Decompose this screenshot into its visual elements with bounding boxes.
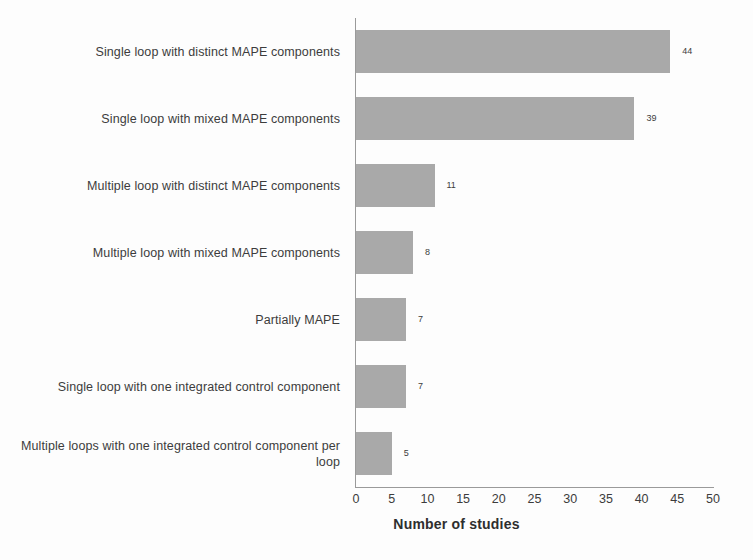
- bar-value-label: 8: [425, 231, 430, 274]
- bar: [356, 164, 435, 207]
- category-label: Multiple loop with distinct MAPE compone…: [10, 178, 340, 194]
- category-label: Single loop with mixed MAPE components: [10, 111, 340, 127]
- bar: [356, 97, 634, 140]
- bar-chart-figure: Single loop with distinct MAPE component…: [0, 0, 753, 560]
- bar-value-label: 11: [447, 164, 456, 207]
- category-label: Multiple loops with one integrated contr…: [10, 438, 340, 470]
- x-axis-title: Number of studies: [0, 516, 753, 532]
- x-axis-title-text: Number of studies: [393, 516, 519, 532]
- x-tick-label: 10: [420, 492, 434, 506]
- x-tick-label: 35: [599, 492, 613, 506]
- x-tick-label: 15: [456, 492, 470, 506]
- x-tick-label: 5: [388, 492, 395, 506]
- x-tick-label: 25: [528, 492, 542, 506]
- bar-value-label: 44: [682, 30, 692, 73]
- bar: [356, 298, 406, 341]
- category-label: Multiple loop with mixed MAPE components: [10, 245, 340, 261]
- bar: [356, 365, 406, 408]
- bar-value-label: 7: [418, 365, 423, 408]
- x-tick-label: 20: [492, 492, 506, 506]
- bar: [356, 30, 670, 73]
- category-label: Single loop with one integrated control …: [10, 379, 340, 395]
- x-axis-tick-labels: 05101520253035404550: [0, 488, 753, 512]
- plot-area: 4439118775: [356, 18, 713, 487]
- x-tick-label: 30: [563, 492, 577, 506]
- x-tick-label: 40: [635, 492, 649, 506]
- bar-value-label: 7: [418, 298, 423, 341]
- x-tick-label: 45: [670, 492, 684, 506]
- bar: [356, 432, 392, 475]
- bar-value-label: 5: [404, 432, 409, 475]
- bar-value-label: 39: [646, 97, 656, 140]
- x-tick-label: 50: [706, 492, 720, 506]
- category-label: Partially MAPE: [10, 312, 340, 328]
- category-label: Single loop with distinct MAPE component…: [10, 44, 340, 60]
- category-axis-labels: Single loop with distinct MAPE component…: [0, 18, 348, 487]
- x-tick-label: 0: [353, 492, 360, 506]
- bar: [356, 231, 413, 274]
